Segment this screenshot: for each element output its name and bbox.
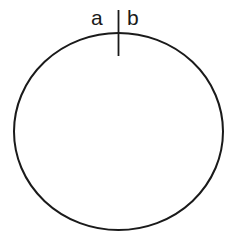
circle-diagram: a b xyxy=(0,0,236,245)
circle xyxy=(14,33,223,230)
label-b: b xyxy=(127,6,139,29)
label-a: a xyxy=(91,6,103,29)
